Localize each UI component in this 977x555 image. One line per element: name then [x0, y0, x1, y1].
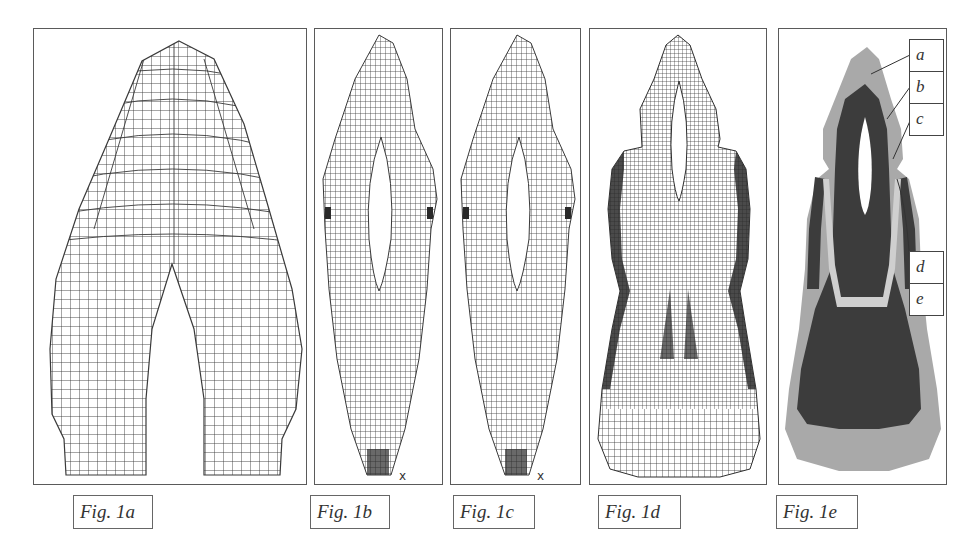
caption-fig-1d: Fig. 1d: [598, 495, 681, 529]
caption-fig-1c: Fig. 1c: [453, 495, 535, 529]
mesh-1d-graphic: [590, 29, 768, 486]
mesh-1b-graphic: x: [315, 29, 444, 486]
material-label-e: e: [909, 283, 944, 316]
axis-label-x-1c: x: [537, 469, 544, 483]
material-label-c: c: [909, 103, 944, 136]
material-label-a: a: [909, 39, 944, 72]
caption-fig-1a: Fig. 1a: [73, 495, 153, 529]
panel-fig-1c: x: [450, 28, 581, 485]
mesh-1a-graphic: [34, 29, 308, 486]
mesh-1c-graphic: x: [451, 29, 582, 486]
material-label-b: b: [909, 71, 944, 104]
panel-fig-1b: x: [314, 28, 443, 485]
panel-fig-1d: [589, 28, 767, 485]
material-label-d: d: [909, 251, 944, 284]
axis-label-x-1b: x: [399, 469, 406, 483]
caption-fig-1e: Fig. 1e: [776, 495, 858, 529]
caption-fig-1b: Fig. 1b: [310, 495, 390, 529]
panel-fig-1a: [33, 28, 307, 485]
panel-fig-1e: a b c d e: [778, 28, 947, 485]
